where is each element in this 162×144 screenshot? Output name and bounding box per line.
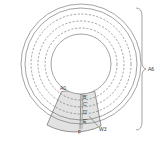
diagram: A0 B' C' D' E' F W3 A6 [0,0,162,144]
label-d: D' [83,109,88,115]
label-w3: W3 [99,126,107,132]
label-f: F [78,129,81,135]
label-a0: A0 [60,85,66,91]
label-b: B' [83,94,87,100]
label-a6: A6 [148,66,154,72]
label-e: E' [83,118,87,124]
shaded-sector [47,91,101,132]
label-c: C' [83,101,88,107]
